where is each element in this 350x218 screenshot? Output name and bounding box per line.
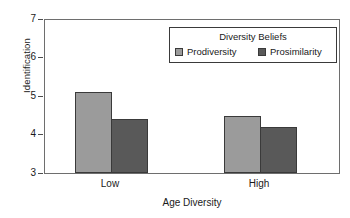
y-tick-mark-7 bbox=[38, 19, 43, 20]
x-tick-label-low: Low bbox=[70, 178, 150, 189]
y-tick-mark-3 bbox=[38, 173, 43, 174]
x-axis-title: Age Diversity bbox=[44, 197, 340, 208]
legend-entry-prodiversity: Prodiversity bbox=[175, 46, 237, 57]
legend-label-prosimilarity: Prosimilarity bbox=[270, 46, 322, 57]
plot-area: Diversity Beliefs Prodiversity Prosimila… bbox=[44, 19, 340, 174]
bar-high-prosimilarity bbox=[260, 127, 297, 174]
x-tick-label-high: High bbox=[219, 178, 299, 189]
y-tick-label-7: 7 bbox=[20, 14, 36, 24]
y-tick-label-6: 6 bbox=[20, 52, 36, 62]
bar-low-prosimilarity bbox=[111, 119, 148, 173]
bar-low-prodiversity bbox=[75, 92, 112, 173]
legend-entry-prosimilarity: Prosimilarity bbox=[258, 46, 322, 57]
y-tick-mark-5 bbox=[38, 96, 43, 97]
chart-legend: Diversity Beliefs Prodiversity Prosimila… bbox=[169, 27, 337, 63]
legend-title: Diversity Beliefs bbox=[170, 31, 336, 42]
bar-chart-figure: Identification 7 6 5 4 3 Diversity Belie… bbox=[0, 0, 350, 218]
y-tick-label-3: 3 bbox=[20, 168, 36, 178]
y-tick-label-5: 5 bbox=[20, 91, 36, 101]
legend-swatch-prodiversity bbox=[175, 48, 183, 56]
legend-swatch-prosimilarity bbox=[258, 48, 266, 56]
y-tick-label-4: 4 bbox=[20, 129, 36, 139]
bar-high-prodiversity bbox=[224, 116, 261, 173]
y-axis-tick-labels: 7 6 5 4 3 bbox=[14, 0, 36, 218]
legend-label-prodiversity: Prodiversity bbox=[187, 46, 237, 57]
y-tick-mark-6 bbox=[38, 57, 43, 58]
y-tick-mark-4 bbox=[38, 134, 43, 135]
